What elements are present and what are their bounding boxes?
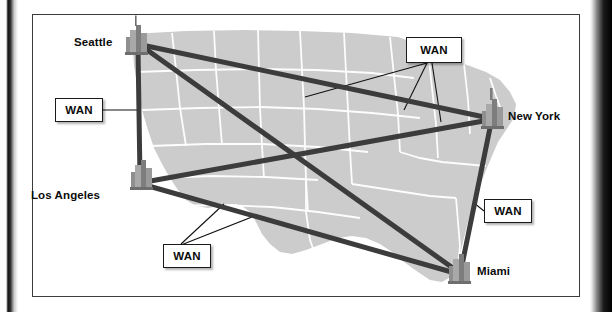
seattle-city-icon — [125, 11, 148, 55]
wan-label-right: WAN — [484, 199, 532, 223]
city-label-los-angeles: Los Angeles — [31, 189, 100, 201]
leader-wan-bottom-1 — [181, 204, 224, 244]
city-label-seattle: Seattle — [74, 36, 112, 48]
wan-label-left: WAN — [55, 98, 103, 122]
city-label-new-york: New York — [508, 110, 560, 122]
figure-page: Seattle Los Angeles New York Miami WAN W… — [0, 0, 612, 312]
wan-label-top-right: WAN — [406, 37, 462, 63]
leader-wan-bottom-2 — [181, 215, 257, 245]
wan-label-bottom: WAN — [163, 244, 211, 268]
link-seattle-los-angeles — [138, 48, 140, 178]
los-angeles-city-icon — [130, 160, 153, 190]
city-label-miami: Miami — [477, 265, 510, 277]
